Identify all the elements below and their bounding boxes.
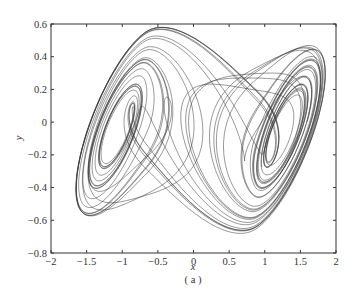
y-tick-label: −0.2: [28, 149, 47, 160]
chart: −2−1.5−1−0.500.511.52 0.60.40.20−0.2−0.4…: [0, 0, 357, 306]
y-tick-label: 0.2: [34, 84, 47, 95]
x-tick-label: 1.5: [294, 256, 307, 267]
y-tick-label: 0: [42, 117, 47, 128]
x-axis-label: x: [190, 261, 196, 272]
y-tick-label: 0.6: [34, 19, 47, 30]
trajectory-path: [76, 27, 325, 233]
x-tick-label: −2: [45, 256, 56, 267]
y-tick-label: −0.8: [28, 248, 47, 259]
x-tick-label: −1: [117, 256, 128, 267]
x-tick-label: 1: [262, 256, 267, 267]
y-tick-label: −0.4: [28, 182, 48, 193]
y-tick-label: 0.4: [34, 51, 48, 62]
x-tick-label: 0.5: [223, 256, 236, 267]
attractor-trajectory: [76, 27, 325, 233]
y-tick-label: −0.6: [28, 215, 47, 226]
figure-caption: ( a ): [185, 274, 202, 286]
x-tick-label: 2: [333, 256, 338, 267]
x-tick-label: −1.5: [77, 256, 96, 267]
x-tick-label: −0.5: [148, 256, 167, 267]
y-axis-label: y: [13, 135, 24, 141]
